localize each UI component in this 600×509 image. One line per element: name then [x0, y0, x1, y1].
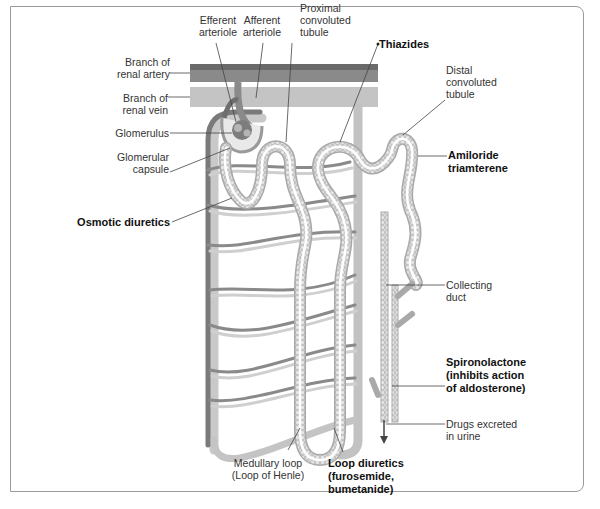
label-line: convoluted — [300, 14, 351, 26]
label-line: arteriole — [194, 26, 242, 38]
label-line: Efferent — [194, 14, 242, 26]
label-line: Proximal — [300, 2, 351, 14]
label-distal-convoluted-tubule: Distal convoluted tubule — [446, 64, 497, 100]
label-line: Medullary loop — [218, 457, 318, 469]
renal-artery — [190, 64, 378, 82]
label-thiazides: Thiazides — [379, 38, 429, 51]
label-renal-vein: Branch of renal vein — [90, 92, 168, 116]
label-line: triamterene — [448, 162, 508, 175]
label-line: (inhibits action — [446, 369, 526, 382]
label-proximal-convoluted-tubule: Proximal convoluted tubule — [300, 2, 351, 38]
label-line: Branch of — [90, 56, 170, 68]
label-glomerulus: Glomerulus — [90, 127, 169, 139]
label-medullary-loop: Medullary loop (Loop of Henle) — [218, 457, 318, 481]
label-line: Collecting — [446, 279, 492, 291]
label-line: tubule — [446, 88, 497, 100]
label-line: Loop diuretics — [328, 457, 404, 470]
label-spironolactone: Spironolactone (inhibits action of aldos… — [446, 356, 526, 395]
label-line: convoluted — [446, 76, 497, 88]
label-afferent-arteriole: Afferent arteriole — [238, 14, 286, 38]
label-loop-diuretics: Loop diuretics (furosemide, bumetanide) — [328, 457, 404, 496]
label-line: duct — [446, 291, 492, 303]
label-efferent-arteriole: Efferent arteriole — [194, 14, 242, 38]
label-glomerular-capsule: Glomerular capsule — [90, 151, 169, 175]
label-line: of aldosterone) — [446, 382, 526, 395]
label-line: capsule — [90, 163, 169, 175]
label-line: Drugs excreted — [446, 418, 517, 430]
label-line: renal artery — [90, 68, 170, 80]
label-line: Amiloride — [448, 149, 508, 162]
label-line: renal vein — [90, 104, 168, 116]
label-line: (furosemide, — [328, 470, 404, 483]
label-collecting-duct: Collecting duct — [446, 279, 492, 303]
label-osmotic-diuretics: Osmotic diuretics — [40, 216, 170, 229]
renal-vein — [190, 87, 378, 107]
label-line: arteriole — [238, 26, 286, 38]
label-line: in urine — [446, 430, 517, 442]
label-amiloride-triamterene: Amiloride triamterene — [448, 149, 508, 175]
label-line: Glomerular — [90, 151, 169, 163]
label-line: Spironolactone — [446, 356, 526, 369]
collecting-duct — [372, 212, 412, 422]
label-line: Distal — [446, 64, 497, 76]
label-renal-artery: Branch of renal artery — [90, 56, 170, 80]
label-line: tubule — [300, 26, 351, 38]
label-drugs-excreted: Drugs excreted in urine — [446, 418, 517, 442]
label-line: Branch of — [90, 92, 168, 104]
label-line: Afferent — [238, 14, 286, 26]
label-line: bumetanide) — [328, 483, 404, 496]
label-line: (Loop of Henle) — [218, 469, 318, 481]
